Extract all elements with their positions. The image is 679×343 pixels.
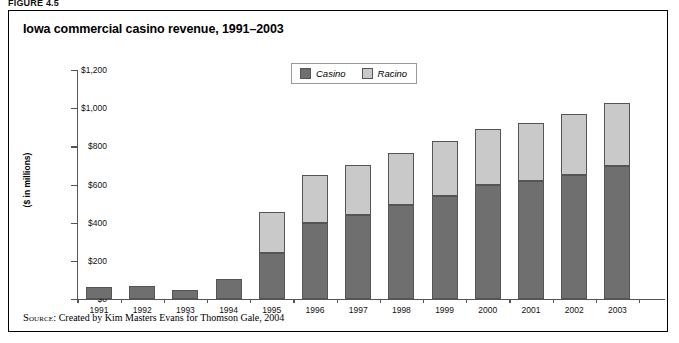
figure-frame: Iowa commercial casino revenue, 1991–200… [8,10,668,332]
y-tick-label-1000: $1,000 [81,103,107,113]
x-tick-label-1997: 1997 [338,305,378,315]
y-tick-0 [71,299,77,300]
x-tick-label-1999: 1999 [425,305,465,315]
y-tick-label-400: $400 [88,218,107,228]
bar-segment-casino-1994[interactable] [216,279,242,299]
y-axis-title: ($ in millions) [22,153,32,208]
bar-segment-racino-2001[interactable] [518,123,544,180]
x-tick-label-2002: 2002 [554,305,594,315]
y-tick-label-800: $800 [88,141,107,151]
bar-segment-racino-1999[interactable] [432,141,458,196]
bar-segment-casino-2001[interactable] [518,181,544,299]
x-tick-end [639,299,640,303]
chart-title: Iowa commercial casino revenue, 1991–200… [23,22,284,36]
y-axis-tick-labels: $0$200$400$600$800$1,000$1,200 [69,61,107,299]
x-axis-line [77,299,665,300]
y-tick-label-1200: $1,200 [81,65,107,75]
x-tick-1992 [121,299,122,303]
x-tick-1998 [380,299,381,303]
x-tick-label-2000: 2000 [468,305,508,315]
bar-segment-casino-1998[interactable] [388,205,414,299]
x-tick-1994 [207,299,208,303]
bar-segment-casino-1995[interactable] [259,253,285,299]
source-text: Created by Kim Masters Evans for Thomson… [56,312,284,323]
y-tick-400 [71,223,77,224]
bar-segment-casino-2002[interactable] [561,175,587,299]
x-tick-label-1996: 1996 [295,305,335,315]
bar-segment-casino-2003[interactable] [604,166,630,299]
x-tick-2000 [466,299,467,303]
y-tick-1200 [71,70,77,71]
figure-label: FIGURE 4.5 [8,0,59,8]
bar-segment-casino-1992[interactable] [129,286,155,299]
x-tick-1995 [250,299,251,303]
x-tick-label-2001: 2001 [511,305,551,315]
bar-segment-racino-2000[interactable] [475,129,501,185]
x-tick-1991 [77,299,78,303]
x-tick-2003 [596,299,597,303]
bar-segment-racino-1996[interactable] [302,175,328,223]
y-tick-1000 [71,108,77,109]
y-tick-label-200: $200 [88,256,107,266]
x-tick-2002 [553,299,554,303]
bar-segment-casino-1993[interactable] [172,290,198,299]
x-tick-1996 [293,299,294,303]
bar-segment-racino-2003[interactable] [604,103,630,166]
bar-segment-racino-2002[interactable] [561,114,587,175]
y-tick-600 [71,185,77,186]
x-tick-label-2003: 2003 [597,305,637,315]
source-note: Source: Created by Kim Masters Evans for… [23,312,284,323]
y-tick-200 [71,261,77,262]
source-kicker: Source: [23,312,56,323]
plot-area: ($ in millions) $0$200$400$600$800$1,000… [77,61,669,299]
x-tick-1997 [337,299,338,303]
bar-segment-racino-1998[interactable] [388,153,414,205]
bar-segment-racino-1995[interactable] [259,212,285,252]
bar-segment-casino-1996[interactable] [302,223,328,299]
x-tick-2001 [509,299,510,303]
bar-segment-casino-2000[interactable] [475,185,501,299]
x-tick-1999 [423,299,424,303]
bar-segment-racino-1997[interactable] [345,165,371,215]
y-tick-label-600: $600 [88,180,107,190]
x-tick-label-1998: 1998 [381,305,421,315]
y-tick-800 [71,146,77,147]
bar-segment-casino-1997[interactable] [345,215,371,299]
bar-segment-casino-1991[interactable] [86,287,112,299]
x-tick-1993 [164,299,165,303]
bar-segment-casino-1999[interactable] [432,196,458,299]
